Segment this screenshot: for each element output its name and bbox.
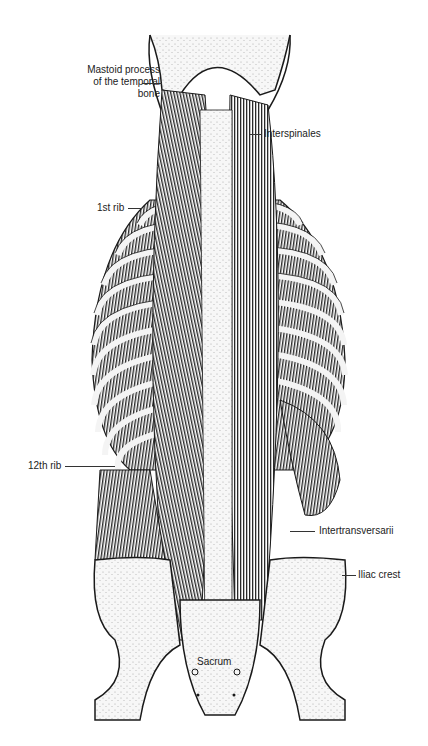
leader-intertransversarii (290, 531, 315, 532)
leader-iliac-crest (342, 575, 356, 576)
mastoid-line1: Mastoid process (40, 64, 160, 76)
back-muscles-illustration (0, 0, 428, 746)
leader-twelfth-rib (65, 466, 115, 467)
label-iliac-crest: Iliac crest (358, 569, 400, 581)
label-twelfth-rib: 12th rib (28, 460, 61, 472)
label-first-rib: 1st rib (97, 202, 124, 214)
label-intertransversarii: Intertransversarii (319, 525, 393, 537)
label-sacrum: Sacrum (197, 656, 231, 668)
leader-first-rib (128, 208, 142, 209)
erector-spinae-muscles (153, 90, 279, 640)
label-mastoid-process: Mastoid process of the temporal bone (40, 64, 160, 100)
mastoid-line3: bone (40, 88, 160, 100)
mastoid-line2: of the temporal (40, 76, 160, 88)
leader-mastoid (142, 83, 162, 84)
anatomy-figure: Mastoid process of the temporal bone Int… (0, 0, 428, 746)
label-interspinales: Interspinales (264, 128, 321, 140)
leader-interspinales (250, 134, 262, 135)
